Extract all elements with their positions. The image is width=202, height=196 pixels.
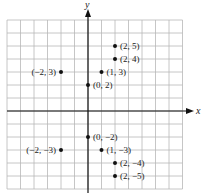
point-label: (0, −2) [93,132,118,142]
axes: x y [7,0,201,193]
point-label: (2, −4) [120,158,145,168]
x-axis-arrow-icon [186,108,194,114]
coordinate-plane: x y (2, 5)(2, 4)(−2, 3)(1, 3)(0, 2)(0, −… [0,0,202,196]
point-label: (1, −3) [107,145,132,155]
point-marker [113,57,117,61]
point-label: (2, −5) [120,171,145,181]
grid-lines [7,20,183,189]
point-marker [59,148,63,152]
y-axis-label: y [84,0,90,10]
point-label: (2, 4) [120,54,140,64]
point-marker [113,161,117,165]
point-marker [100,148,104,152]
point-label: (−2, 3) [31,67,56,77]
point-label: (1, 3) [107,67,127,77]
point-label: (2, 5) [120,41,140,51]
y-axis-arrow-icon [85,9,91,17]
point-marker [86,135,90,139]
point-label: (0, 2) [93,80,113,90]
point-marker [113,174,117,178]
x-axis-label: x [195,105,201,116]
point-marker [100,70,104,74]
point-marker [59,70,63,74]
point-label: (−2, −3) [26,145,56,155]
point-marker [86,83,90,87]
point-marker [113,44,117,48]
